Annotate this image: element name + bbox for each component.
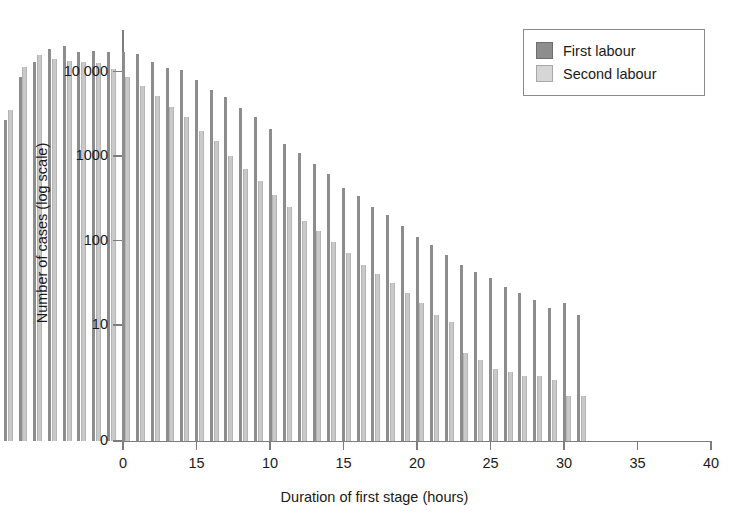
x-tick-label-25: 25: [471, 455, 511, 471]
bar-first-labour-hour-14: [195, 80, 198, 441]
bar-second-labour-hour-31: [449, 322, 454, 441]
y-tick-label-wrap: 1000: [0, 147, 108, 163]
x-tick-label-40: 40: [691, 455, 731, 471]
bar-second-labour-hour-18: [258, 181, 263, 441]
legend-label-first-labour: First labour: [563, 43, 636, 59]
bar-second-labour-hour-21: [302, 221, 307, 441]
bar-first-labour-hour-29: [416, 237, 419, 441]
x-axis-title: Duration of first stage (hours): [0, 489, 749, 505]
bar-second-labour-hour-26: [375, 274, 380, 441]
bar-second-labour-hour-37: [537, 376, 542, 441]
bar-first-labour-hour-24: [342, 188, 345, 441]
x-tick-15: [343, 441, 345, 450]
x-tick-20: [416, 441, 418, 450]
bar-second-labour-hour-10: [140, 86, 145, 441]
bar-second-labour-hour-6: [81, 62, 86, 441]
bar-first-labour-hour-33: [474, 272, 477, 441]
bar-first-labour-hour-2: [19, 77, 22, 441]
y-tick-1000: [113, 155, 122, 157]
bar-second-labour-hour-25: [361, 265, 366, 442]
x-tick-label-0: 0: [103, 455, 143, 471]
bar-first-labour-hour-1: [4, 120, 7, 441]
bar-first-labour-hour-35: [504, 287, 507, 441]
bar-second-labour-hour-14: [199, 131, 204, 441]
bar-second-labour-hour-9: [125, 77, 130, 441]
bar-first-labour-hour-28: [401, 226, 404, 441]
y-tick-label-10000: 10 000: [4, 63, 108, 79]
bar-first-labour-hour-40: [577, 315, 580, 441]
x-tick-25: [490, 441, 492, 450]
bar-first-labour-hour-13: [180, 70, 183, 441]
bar-second-labour-hour-32: [463, 353, 468, 441]
bar-second-labour-hour-19: [272, 195, 277, 441]
bar-second-labour-hour-27: [390, 283, 395, 441]
bar-second-labour-hour-4: [52, 59, 57, 441]
bar-first-labour-hour-34: [489, 278, 492, 441]
y-axis-title: Number of cases (log scale): [34, 43, 50, 423]
x-tick-label-35: 35: [618, 455, 658, 471]
chart-figure: 010100100010 000 01510152025303540 Numbe…: [0, 0, 749, 528]
bar-second-labour-hour-35: [508, 372, 513, 441]
bar-second-labour-hour-2: [22, 67, 27, 441]
x-tick-30: [563, 441, 565, 450]
y-tick-0: [113, 440, 122, 442]
bar-first-labour-hour-15: [210, 90, 213, 441]
y-tick-100: [113, 240, 122, 242]
bar-second-labour-hour-28: [405, 293, 410, 441]
y-tick-10: [113, 324, 122, 326]
legend-swatch-first-labour: [536, 42, 553, 59]
bar-first-labour-hour-25: [357, 196, 360, 441]
y-tick-label-0: 0: [4, 432, 108, 448]
bar-second-labour-hour-38: [552, 380, 557, 441]
bar-second-labour-hour-17: [243, 169, 248, 441]
bar-first-labour-hour-17: [239, 108, 242, 441]
y-tick-label-100: 100: [4, 232, 108, 248]
bar-first-labour-hour-38: [548, 308, 551, 441]
bar-second-labour-hour-12: [169, 107, 174, 441]
x-tick-0: [122, 441, 124, 450]
legend-label-second-labour: Second labour: [563, 66, 657, 82]
bar-second-labour-hour-40: [581, 396, 586, 441]
bar-first-labour-hour-39: [563, 303, 566, 441]
bar-second-labour-hour-24: [346, 253, 351, 441]
x-tick-label-15: 15: [324, 455, 364, 471]
bar-first-labour-hour-30: [430, 245, 433, 441]
bar-second-labour-hour-39: [566, 396, 571, 441]
x-tick-label-5: 15: [177, 455, 217, 471]
x-tick-label-10: 10: [250, 455, 290, 471]
bar-first-labour-hour-16: [224, 97, 227, 441]
bar-first-labour-hour-12: [166, 68, 169, 441]
x-tick-35: [637, 441, 639, 450]
y-tick-label-1000: 1000: [4, 147, 108, 163]
y-tick-label-wrap: 0: [0, 432, 108, 448]
y-tick-label-wrap: 10 000: [0, 63, 108, 79]
bar-first-labour-hour-18: [254, 117, 257, 441]
bar-first-labour-hour-22: [313, 164, 316, 441]
bar-second-labour-hour-22: [316, 231, 321, 441]
bar-second-labour-hour-5: [67, 61, 72, 442]
x-tick-40: [710, 441, 712, 450]
bar-first-labour-hour-9: [122, 52, 125, 441]
bar-second-labour-hour-36: [522, 376, 527, 441]
bar-second-labour-hour-33: [478, 360, 483, 441]
y-tick-label-wrap: 100: [0, 232, 108, 248]
x-tick-5: [196, 441, 198, 450]
legend-item-second-labour: Second labour: [536, 62, 694, 85]
bar-first-labour-hour-20: [283, 144, 286, 441]
bar-first-labour-hour-19: [269, 129, 272, 441]
bar-first-labour-hour-36: [518, 293, 521, 441]
bar-second-labour-hour-30: [434, 315, 439, 441]
bar-first-labour-hour-26: [371, 207, 374, 441]
bar-first-labour-hour-23: [327, 174, 330, 441]
legend-swatch-second-labour: [536, 65, 553, 82]
bar-first-labour-hour-10: [136, 54, 139, 441]
x-tick-label-20: 20: [397, 455, 437, 471]
legend-item-first-labour: First labour: [536, 39, 694, 62]
bar-first-labour-hour-21: [298, 153, 301, 441]
bar-second-labour-hour-23: [331, 242, 336, 441]
x-tick-10: [269, 441, 271, 450]
bar-first-labour-hour-37: [533, 300, 536, 441]
bar-second-labour-hour-16: [228, 156, 233, 441]
bar-first-labour-hour-32: [460, 265, 463, 442]
chart-legend: First labour Second labour: [523, 29, 705, 96]
